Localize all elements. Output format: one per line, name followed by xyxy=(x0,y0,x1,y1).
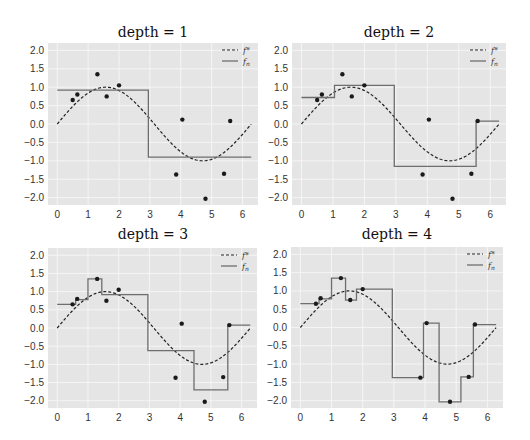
x-tick-label: 5 xyxy=(453,412,459,423)
y-tick-label: 0.5 xyxy=(273,304,287,315)
data-point xyxy=(418,375,422,379)
y-tick-label: −0.5 xyxy=(267,340,287,351)
x-tick-label: 3 xyxy=(391,412,397,423)
data-point xyxy=(424,321,428,325)
legend-label-true: f* xyxy=(487,250,495,259)
y-tick-label: 1.0 xyxy=(273,285,287,296)
chart-plot: 01234562.01.51.00.50.0−0.5−1.0−1.5−2.0f*… xyxy=(0,0,530,440)
x-tick-label: 1 xyxy=(329,412,335,423)
y-tick-label: −1.0 xyxy=(267,359,287,370)
y-tick-label: −2.0 xyxy=(267,395,287,406)
x-tick-label: 6 xyxy=(485,412,491,423)
data-point xyxy=(339,276,343,280)
y-tick-label: 1.5 xyxy=(273,267,287,278)
data-point xyxy=(448,400,452,404)
data-point xyxy=(318,296,322,300)
data-point xyxy=(473,322,477,326)
x-tick-label: 4 xyxy=(422,412,428,423)
x-tick-label: 0 xyxy=(298,412,304,423)
data-point xyxy=(467,375,471,379)
data-point xyxy=(361,287,365,291)
y-tick-label: 2.0 xyxy=(273,249,287,260)
data-point xyxy=(314,302,318,306)
data-point xyxy=(348,298,352,302)
y-tick-label: 0.0 xyxy=(273,322,287,333)
y-tick-label: −1.5 xyxy=(267,377,287,388)
x-tick-label: 2 xyxy=(360,412,366,423)
